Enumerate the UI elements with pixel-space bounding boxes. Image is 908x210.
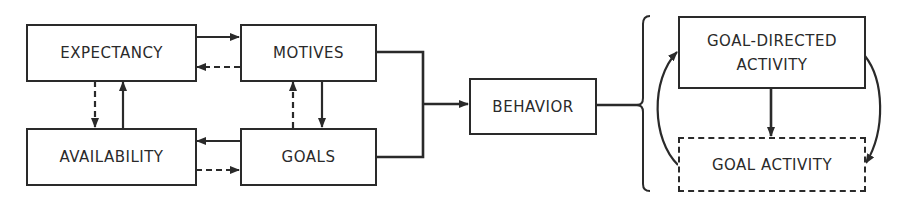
node-expectancy: EXPECTANCY xyxy=(26,24,197,82)
node-goal-activity: GOAL ACTIVITY xyxy=(678,137,866,192)
brace xyxy=(637,16,650,191)
node-goal-directed-activity: GOAL-DIRECTED ACTIVITY xyxy=(678,16,866,89)
node-goals: GOALS xyxy=(240,128,377,186)
node-goal-directed-activity-label: GOAL-DIRECTED ACTIVITY xyxy=(707,29,837,77)
arrow-goal-activity-to-goal-directed xyxy=(658,52,678,165)
node-availability-label: AVAILABILITY xyxy=(59,145,163,169)
node-motives: MOTIVES xyxy=(240,24,377,82)
node-goal-activity-label: GOAL ACTIVITY xyxy=(712,153,832,177)
node-motives-label: MOTIVES xyxy=(273,41,344,65)
node-behavior: BEHAVIOR xyxy=(469,78,597,135)
arrow-goal-directed-to-goal-activity-curved xyxy=(865,56,880,163)
node-goals-label: GOALS xyxy=(282,145,336,169)
arrow-motives-goals-to-behavior xyxy=(376,52,468,157)
node-behavior-label: BEHAVIOR xyxy=(492,95,573,119)
node-availability: AVAILABILITY xyxy=(26,128,197,186)
node-expectancy-label: EXPECTANCY xyxy=(60,41,163,65)
